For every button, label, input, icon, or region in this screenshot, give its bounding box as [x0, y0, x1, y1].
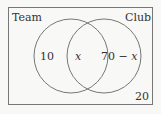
- team-label: Team: [12, 12, 42, 24]
- club-only-value: 70 − x: [101, 51, 137, 63]
- team-only-value: 10: [40, 51, 54, 63]
- club-label: Club: [125, 12, 151, 24]
- intersection-value: x: [75, 51, 81, 63]
- neither-value: 20: [135, 91, 149, 103]
